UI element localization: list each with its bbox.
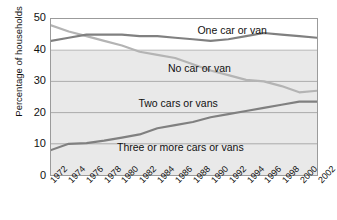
y-tick-label: 30 [2, 75, 46, 86]
y-tick-label: 10 [2, 138, 46, 149]
y-tick-label: 40 [2, 44, 46, 55]
x-axis-tick-labels: 1972197419761978198019821984198619881990… [50, 178, 318, 220]
series-label: One car or van [197, 24, 266, 36]
y-axis-tick-labels: 01020304050 [0, 0, 46, 220]
series-label: Two cars or vans [138, 97, 217, 109]
y-tick-label: 0 [2, 170, 46, 181]
y-tick-label: 20 [2, 107, 46, 118]
x-tick-label: 2002 [316, 164, 337, 185]
series-label: No car or van [168, 62, 231, 74]
y-tick-label: 50 [2, 12, 46, 23]
series-label: Three or more cars or vans [117, 141, 244, 153]
